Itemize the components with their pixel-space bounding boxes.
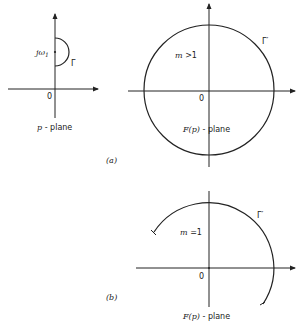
panel-a-tag: (a) (106, 156, 117, 165)
panel-b-origin-label: 0 (199, 272, 204, 281)
panel-b-condition-label: m =1 (180, 228, 202, 237)
p-plane-origin-label: 0 (47, 92, 52, 101)
panel-b-origin-dot (208, 267, 210, 269)
p-plane-title: p - plane (37, 123, 72, 132)
panel-b-diagram: m =1 Γ′ 0 (b) F(p) - plane (106, 191, 295, 321)
diagram-canvas: jω1 Γ 0 p - plane m >1 Γ′ 0 F(p) - plane… (0, 0, 299, 323)
arc-end-tick (260, 302, 265, 305)
panel-a-gamma-prime-label: Γ′ (262, 37, 268, 46)
gamma-semicircle-contour (55, 38, 69, 66)
j-omega-1-label: jω1 (34, 48, 49, 58)
p-plane-diagram: jω1 Γ 0 p - plane (8, 14, 98, 132)
gamma-label: Γ (71, 59, 76, 68)
j-omega-1-point (54, 51, 56, 53)
panel-a-origin-label: 0 (199, 94, 204, 103)
panel-a-plane-title: F(p) - plane (182, 125, 230, 134)
gamma-prime-arc-contour (154, 203, 274, 304)
panel-a-condition-label: m >1 (175, 51, 197, 60)
panel-a-diagram: m >1 Γ′ 0 F(p) - plane (a) (106, 4, 295, 167)
panel-b-plane-title: F(p) - plane (182, 312, 230, 321)
panel-b-gamma-prime-label: Γ′ (257, 211, 263, 220)
panel-b-tag: (b) (106, 293, 117, 302)
